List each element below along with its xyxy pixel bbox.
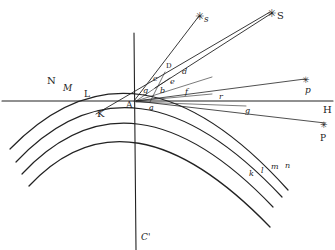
star-s-icon: ✳ <box>195 10 204 23</box>
label-k: k <box>249 169 254 178</box>
label-K: K <box>97 108 105 119</box>
label-n: n <box>285 161 290 170</box>
label-s: s <box>204 14 209 24</box>
label-e: e <box>170 77 175 86</box>
label-D: D <box>166 62 172 70</box>
label-m: m <box>271 162 279 171</box>
label-r: r <box>219 92 224 101</box>
label-p: p <box>305 85 311 95</box>
label-P: P <box>320 133 326 143</box>
label-d: d <box>182 67 187 76</box>
label-l: l <box>261 166 264 175</box>
label-M: M <box>62 83 73 93</box>
label-H: H <box>323 104 332 115</box>
label-b: b <box>160 86 165 95</box>
label-f: f <box>184 87 190 96</box>
diagram-canvas: N M L K A H C' D d c e g b a f r g k l m… <box>0 0 335 250</box>
label-N: N <box>47 75 56 86</box>
label-S: S <box>277 10 284 21</box>
star-S-icon: ✳ <box>267 7 276 20</box>
arc-M <box>16 108 282 197</box>
label-A: A <box>125 100 133 110</box>
label-a: a <box>149 103 154 112</box>
label-g-small: g <box>143 86 148 95</box>
vertical-line-AC <box>134 33 136 250</box>
label-g: g <box>245 106 250 115</box>
ray-to-S-1 <box>96 12 270 114</box>
ray-to-P <box>136 101 325 123</box>
star-P-icon: ✳ <box>320 120 328 130</box>
label-c: c <box>153 74 158 83</box>
diagram-svg: N M L K A H C' D d c e g b a f r g k l m… <box>0 0 335 250</box>
star-p-icon: ✳ <box>302 75 310 85</box>
label-C-prime: C' <box>141 232 150 242</box>
arc-K <box>29 142 270 227</box>
label-L: L <box>84 89 90 99</box>
